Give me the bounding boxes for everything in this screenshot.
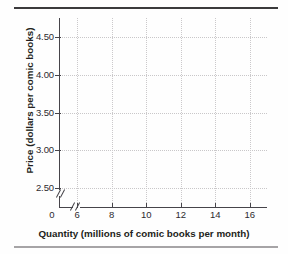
x-axis-title: Quantity (millions of comic books per mo… xyxy=(0,228,288,239)
gridline-vertical xyxy=(77,18,78,207)
x-axis-tick xyxy=(112,203,113,208)
x-axis-tick-label: 16 xyxy=(239,209,261,220)
gridline-vertical xyxy=(215,18,216,207)
top-divider-rule xyxy=(14,7,278,9)
y-axis-tick-label: 4.00 xyxy=(24,69,54,80)
x-axis-tick-label: 12 xyxy=(170,209,192,220)
x-axis-tick xyxy=(146,203,147,208)
gridline-horizontal xyxy=(60,75,267,76)
y-axis-line xyxy=(59,18,60,190)
y-axis-tick-label: 3.50 xyxy=(24,107,54,118)
gridline-vertical xyxy=(181,18,182,207)
gridline-horizontal xyxy=(60,37,267,38)
origin-tick-label: 0 xyxy=(45,209,59,220)
y-axis-tick xyxy=(55,150,61,151)
x-axis-tick xyxy=(250,203,251,208)
gridline-horizontal xyxy=(60,113,267,114)
gridline-horizontal xyxy=(60,150,267,151)
x-axis-tick-label: 8 xyxy=(101,209,123,220)
x-axis-tick-label: 14 xyxy=(204,209,226,220)
y-axis-tick xyxy=(55,37,61,38)
y-axis-tick xyxy=(55,113,61,114)
y-axis-tick-label: 3.00 xyxy=(24,144,54,155)
x-axis-tick-label: 10 xyxy=(135,209,157,220)
bottom-divider-rule xyxy=(14,246,278,248)
y-axis-tick-label: 2.50 xyxy=(24,182,54,193)
y-axis-tick xyxy=(55,75,61,76)
gridline-vertical xyxy=(112,18,113,207)
gridline-vertical xyxy=(146,18,147,207)
chart-figure: 0 Price (dollars per comic books) Quanti… xyxy=(0,0,288,254)
gridline-vertical xyxy=(250,18,251,207)
y-axis-tick-label: 4.50 xyxy=(24,31,54,42)
y-axis-break-icon xyxy=(55,188,67,202)
x-axis-tick xyxy=(215,203,216,208)
x-axis-tick-label: 6 xyxy=(66,209,88,220)
gridline-horizontal xyxy=(60,188,267,189)
x-axis-tick xyxy=(181,203,182,208)
